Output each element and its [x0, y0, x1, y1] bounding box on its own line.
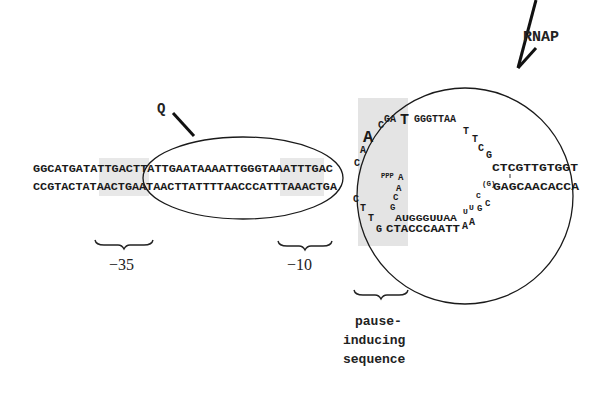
rna-strand: AUGGGUUAA	[395, 214, 458, 224]
nt-segment: GGGTTAA	[414, 114, 456, 125]
nt-base: T	[463, 126, 469, 137]
pause-label-line1: pause-	[355, 314, 402, 329]
rna-base: G	[390, 203, 395, 213]
rna-base: A	[398, 173, 404, 183]
rna-hairpin: C	[476, 191, 481, 200]
dna-bottom-strand: CCGTACTATAACTGAATAACTTATTTTAACCCATTTAAAC…	[33, 182, 338, 193]
t-base: A	[469, 217, 475, 228]
brace-pause	[354, 290, 408, 299]
rna-triphosphate: PPP	[381, 172, 394, 180]
nt-base: C	[354, 158, 360, 169]
brace-minus10	[278, 241, 332, 250]
rnap-label: RNAP	[523, 29, 559, 46]
dna-top-strand: GGCATGATATTGACTTATTGAATAAAATTGGGTAAATTTG…	[33, 164, 333, 175]
minus35-label: −35	[109, 256, 134, 273]
minus10-label: −10	[287, 256, 312, 273]
t-base: C	[353, 194, 359, 205]
t-base: T	[360, 203, 366, 214]
q-pointer-line	[173, 113, 194, 136]
nt-base: C	[478, 143, 484, 154]
nt-base: G	[486, 150, 492, 161]
rna-hairpin: C	[485, 199, 491, 209]
nt-base: GA	[384, 114, 396, 125]
t-base: A	[462, 221, 468, 232]
rna-hairpin: U	[463, 207, 468, 216]
t-segment: CTACCCAATT	[386, 224, 460, 235]
rna-hairpin: U	[469, 203, 474, 212]
diagram-svg: Q RNAP GGCATGATATTGACTTATTGAATAAAATTGGGT…	[0, 0, 604, 393]
t-base: G	[376, 224, 382, 235]
downstream-top-strand: CTCGTTGTGGT	[492, 163, 578, 174]
downstream-bottom-strand: GAGCAACACCA	[493, 182, 579, 193]
nt-base-large: T	[400, 112, 409, 129]
q-label: Q	[157, 101, 165, 117]
rna-hairpin: G	[477, 204, 482, 214]
promoter-pause-diagram: Q RNAP GGCATGATATTGACTTATTGAATAAAATTGGGT…	[0, 0, 604, 393]
nt-base-large: A	[363, 128, 374, 147]
pause-label-line3: sequence	[343, 352, 406, 367]
brace-minus35	[95, 240, 153, 249]
pause-label-line2: inducing	[343, 333, 406, 348]
rna-base: C	[393, 193, 399, 203]
t-base: T	[368, 213, 374, 224]
